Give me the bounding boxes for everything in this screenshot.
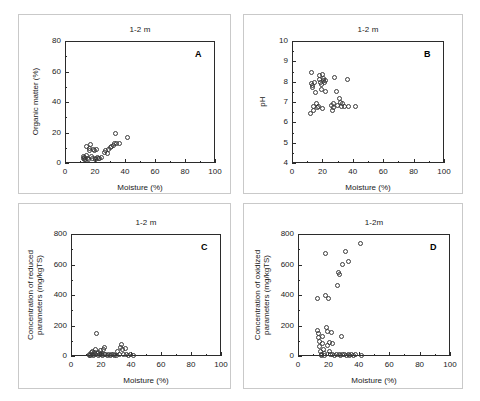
y-tick (65, 41, 69, 42)
x-minor-tick (170, 161, 171, 163)
panel-c: 1-2 m C 0204060801000200400600800Moistur… (18, 203, 231, 389)
x-tick-label: 20 (82, 167, 108, 176)
y-tick (292, 82, 296, 83)
y-tick-label: 400 (41, 290, 67, 299)
data-point (131, 353, 136, 358)
y-tick (298, 356, 302, 357)
x-tick-label: 0 (52, 167, 78, 176)
x-tick (185, 159, 186, 163)
x-tick-label: 60 (376, 360, 402, 369)
y-tick (65, 133, 69, 134)
data-point (320, 106, 325, 111)
x-tick-label: 60 (148, 360, 174, 369)
y-tick-label: 200 (41, 321, 67, 330)
y-axis-title: pH (258, 34, 267, 170)
x-tick (444, 159, 445, 163)
y-tick (65, 72, 69, 73)
y-minor-tick (298, 310, 300, 311)
y-minor-tick (292, 112, 294, 113)
x-tick (420, 352, 421, 356)
data-point (309, 70, 314, 75)
data-point (315, 296, 320, 301)
y-tick-label: 200 (268, 321, 294, 330)
y-tick (292, 102, 296, 103)
data-point (330, 341, 335, 346)
panel-c-plot-frame (71, 234, 221, 356)
y-tick (292, 122, 296, 123)
y-minor-tick (298, 341, 300, 342)
x-minor-tick (374, 354, 375, 356)
data-point (323, 89, 328, 94)
panel-b: 1-2 m B 02040608010045678910Moisture (%)… (243, 14, 463, 194)
x-minor-tick (206, 354, 207, 356)
y-tick (292, 163, 296, 164)
x-tick-label: 0 (58, 360, 84, 369)
y-tick-label: 600 (268, 260, 294, 269)
data-point (322, 353, 327, 358)
data-point (94, 331, 99, 336)
x-tick-label: 20 (309, 167, 335, 176)
y-tick (71, 295, 75, 296)
panel-b-title: 1-2 m (292, 25, 444, 34)
y-minor-tick (292, 133, 294, 134)
y-tick (65, 102, 69, 103)
data-point (353, 104, 358, 109)
x-tick-label: 20 (315, 360, 341, 369)
x-tick-label: 100 (208, 360, 234, 369)
data-point (340, 262, 345, 267)
data-point (323, 251, 328, 256)
panel-d: 1-2m D 0204060801000200400600800Moisture… (243, 203, 463, 389)
x-minor-tick (404, 354, 405, 356)
y-tick-label: 0 (268, 351, 294, 360)
y-tick (71, 356, 75, 357)
y-tick (292, 41, 296, 42)
data-point (123, 346, 128, 351)
y-minor-tick (65, 148, 67, 149)
x-tick (389, 352, 390, 356)
x-tick (353, 159, 354, 163)
x-tick-label: 20 (88, 360, 114, 369)
y-minor-tick (292, 92, 294, 93)
x-minor-tick (338, 161, 339, 163)
x-tick (125, 159, 126, 163)
figure-canvas: 1-2 m A 020406080100020406080Moisture (%… (0, 0, 480, 401)
y-minor-tick (292, 51, 294, 52)
x-tick-label: 40 (340, 167, 366, 176)
y-tick (71, 234, 75, 235)
y-axis-title: Organic matter (%) (31, 34, 40, 170)
x-tick (322, 159, 323, 163)
y-tick (71, 326, 75, 327)
data-point (99, 155, 104, 160)
data-point (335, 283, 340, 288)
x-tick-label: 100 (202, 167, 228, 176)
panel-a-title: 1-2 m (65, 25, 215, 34)
x-minor-tick (200, 161, 201, 163)
y-minor-tick (292, 72, 294, 73)
x-tick (215, 159, 216, 163)
y-minor-tick (292, 153, 294, 154)
x-tick-label: 60 (142, 167, 168, 176)
x-tick (221, 352, 222, 356)
x-minor-tick (435, 354, 436, 356)
y-tick-label: 800 (41, 229, 67, 238)
data-point (346, 104, 351, 109)
x-tick-label: 40 (112, 167, 138, 176)
x-tick-label: 80 (401, 167, 427, 176)
x-tick (191, 352, 192, 356)
panel-a: 1-2 m A 020406080100020406080Moisture (%… (18, 14, 231, 194)
x-minor-tick (176, 354, 177, 356)
x-minor-tick (140, 161, 141, 163)
x-minor-tick (429, 161, 430, 163)
x-tick-label: 100 (437, 360, 463, 369)
y-minor-tick (71, 249, 73, 250)
data-point (102, 345, 107, 350)
y-minor-tick (298, 249, 300, 250)
x-axis-title: Moisture (%) (292, 183, 444, 192)
y-minor-tick (71, 310, 73, 311)
x-tick-label: 40 (118, 360, 144, 369)
data-point (359, 353, 364, 358)
data-point (117, 141, 122, 146)
data-point (337, 272, 342, 277)
x-tick (155, 159, 156, 163)
y-minor-tick (65, 56, 67, 57)
